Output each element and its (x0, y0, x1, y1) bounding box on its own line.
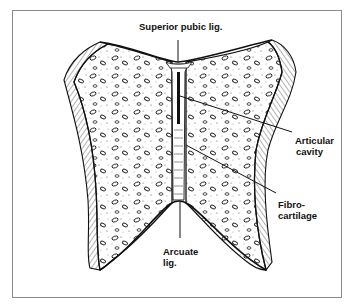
articular-cavity-slit (177, 72, 180, 124)
label-superior-pubic-lig: Superior pubic lig. (139, 21, 222, 32)
label-fibrocartilage: Fibro- cartilage (278, 199, 317, 221)
label-articular-cavity: Articular cavity (295, 135, 334, 157)
label-arcuate-lig: Arcuate lig. (163, 246, 198, 268)
